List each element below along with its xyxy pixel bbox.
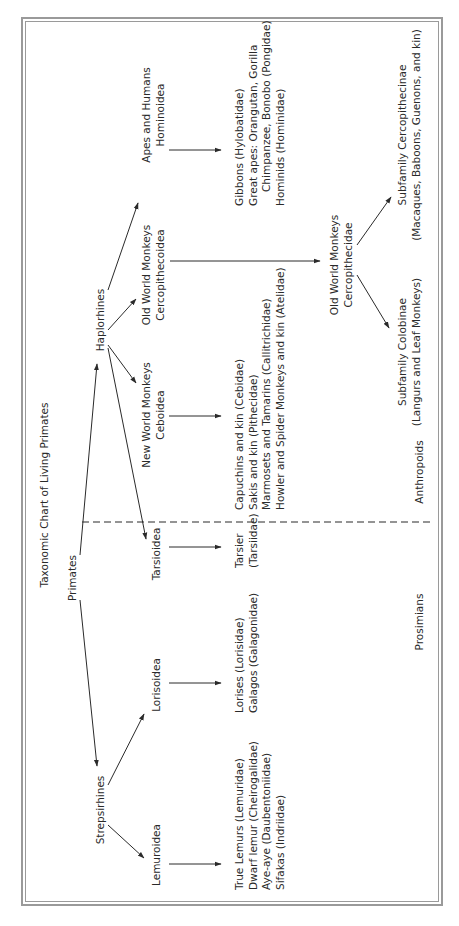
arrow-primates-haplorhines	[80, 364, 97, 555]
family-item: Capuchins and kin (Cebidae)	[233, 267, 247, 510]
taxonomy-diagram: Taxonomic Chart of Living Primates Prima…	[0, 0, 459, 926]
families-lorisoidea: Lorises (Lorisidae) Galagos (Galagonidae…	[233, 593, 260, 713]
node-lorisoidea: Lorisoidea	[150, 658, 164, 712]
node-cercopithecidae: Old World Monkeys Cercopithecidae	[328, 215, 355, 316]
family-item: Dwarf lemur (Cheirogalidae)	[247, 741, 261, 890]
family-item: Aye-aye (Daubentoniidae)	[260, 741, 274, 890]
colobinae-name: Subfamily Colobinae	[396, 278, 410, 426]
new-world-taxon: Ceboidea	[154, 362, 168, 468]
node-old-world-monkeys: Old World Monkeys Cercopithecoidea	[140, 225, 167, 326]
family-item: (Tarsiidae)	[247, 514, 261, 568]
group-label-anthropoids: Anthropoids	[413, 440, 427, 503]
cercopithecidae-common-name: Old World Monkeys	[328, 215, 342, 316]
apes-taxon: Hominoidea	[154, 67, 168, 163]
family-item: Tarsier	[233, 514, 247, 568]
arrow-cercopithecidae-cercopithecinae	[357, 197, 391, 245]
arrow-cercopithecidae-colobinae	[357, 275, 389, 328]
node-lemuroidea: Lemuroidea	[150, 824, 164, 886]
family-item: Gibbons (Hylobatidae)	[233, 21, 247, 207]
families-tarsioidea: Tarsier (Tarsiidae)	[233, 514, 260, 568]
family-item: Marmosets and Tamarins (Callitrichidae)	[260, 267, 274, 510]
family-item: Lorises (Lorisidae)	[233, 593, 247, 713]
node-new-world-monkeys: New World Monkeys Ceboidea	[140, 362, 167, 468]
node-haplorhines: Haplorhines	[94, 289, 108, 352]
family-item: Sakis and kin (Pithecidae)	[247, 267, 261, 510]
new-world-common-name: New World Monkeys	[140, 362, 154, 468]
family-item: Howler and Spider Monkeys and kin (Ateli…	[274, 267, 288, 510]
families-new-world: Capuchins and kin (Cebidae) Sakis and ki…	[233, 267, 287, 510]
colobinae-members: (Langurs and Leaf Monkeys)	[410, 278, 424, 426]
family-item: Great apes: Orangutan, Gorilla	[247, 21, 261, 207]
cercopithecinae-members: (Macaques, Baboons, Guenons, and kin)	[410, 29, 424, 241]
node-strepsirhines: Strepsirhines	[94, 776, 108, 845]
group-label-prosimians: Prosimians	[413, 594, 427, 651]
arrow-haplorhines-new-world	[108, 345, 136, 383]
node-apes-humans: Apes and Humans Hominoidea	[140, 67, 167, 163]
node-cercopithecinae: Subfamily Cercopithecinae (Macaques, Bab…	[396, 29, 423, 241]
cercopithecinae-name: Subfamily Cercopithecinae	[396, 29, 410, 241]
arrow-strepsirhines-lemuroidea	[108, 825, 144, 858]
old-world-taxon: Cercopithecoidea	[154, 225, 168, 326]
arrow-haplorhines-old-world	[108, 299, 136, 330]
arrow-primates-strepsirhines	[80, 600, 97, 766]
arrow-haplorhines-apes	[108, 203, 138, 290]
families-lemuroidea: True Lemurs (Lemuridae) Dwarf lemur (Che…	[233, 741, 287, 890]
family-item: True Lemurs (Lemuridae)	[233, 741, 247, 890]
apes-common-name: Apes and Humans	[140, 67, 154, 163]
family-item: Hominids (Hominidae)	[274, 21, 288, 207]
node-tarsioidea: Tarsioidea	[150, 528, 164, 581]
family-item: Galagos (Galagonidae)	[247, 593, 261, 713]
node-primates: Primates	[66, 555, 80, 601]
family-item: Sifakas (Indriidae)	[274, 741, 288, 890]
arrow-strepsirhines-lorisoidea	[108, 714, 144, 785]
family-item: Chimpanzee, Bonobo (Pongidae)	[260, 21, 274, 207]
chart-title: Taxonomic Chart of Living Primates	[38, 402, 52, 587]
old-world-common-name: Old World Monkeys	[140, 225, 154, 326]
node-colobinae: Subfamily Colobinae (Langurs and Leaf Mo…	[396, 278, 423, 426]
cercopithecidae-taxon: Cercopithecidae	[342, 215, 356, 316]
families-apes: Gibbons (Hylobatidae) Great apes: Orangu…	[233, 21, 287, 207]
connector-lines	[0, 0, 459, 926]
